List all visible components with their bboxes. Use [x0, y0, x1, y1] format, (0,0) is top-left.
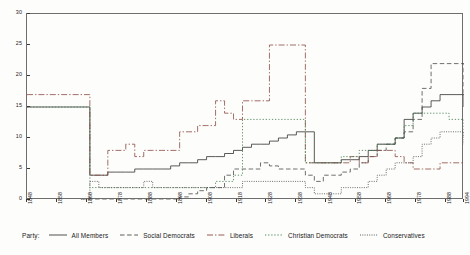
- y-tick-label: 15: [6, 103, 22, 108]
- x-tick-label: 1968: [387, 192, 392, 204]
- legend-swatch-liberals: [207, 232, 225, 238]
- legend-item-conservatives: Conservatives: [360, 232, 425, 239]
- y-tick-label: 20: [6, 72, 22, 77]
- legend-swatch-conservatives: [360, 232, 378, 238]
- x-tick-label: 1938: [298, 192, 303, 204]
- chart-legend: Party: All MembersSocial DemocratsLibera…: [22, 229, 437, 241]
- legend-item-social-democrats: Social Democrats: [120, 232, 195, 239]
- legend-label: All Members: [72, 232, 109, 239]
- y-tick-mark: [27, 13, 30, 14]
- y-tick-mark: [27, 137, 30, 138]
- legend-swatch-social-democrats: [120, 232, 138, 238]
- y-tick-mark: [27, 75, 30, 76]
- series-line-social-democrats: [81, 64, 464, 200]
- y-tick-label: 25: [6, 41, 22, 46]
- x-tick-label: 1958: [357, 192, 362, 204]
- legend-item-all-members: All Members: [49, 232, 109, 239]
- series-line-all-members: [27, 95, 464, 176]
- x-tick-label: 1908: [208, 192, 213, 204]
- plot-canvas: [27, 14, 464, 200]
- x-tick-label: 1868: [88, 192, 93, 204]
- series-line-conservatives: [81, 132, 464, 200]
- x-tick-label: 1948: [328, 192, 333, 204]
- y-tick-label: 0: [6, 196, 22, 201]
- x-tick-label: 1978: [417, 192, 422, 204]
- y-tick-label: 30: [6, 10, 22, 15]
- x-tick-label: 1994: [465, 192, 470, 204]
- series-line-liberals: [27, 45, 464, 175]
- legend-label: Christian Democrats: [288, 232, 348, 239]
- legend-label: Liberals: [230, 232, 253, 239]
- x-tick-label: 1898: [178, 192, 183, 204]
- y-tick-label: 5: [6, 165, 22, 170]
- x-tick-label: 1888: [148, 192, 153, 204]
- y-tick-label: 10: [6, 134, 22, 139]
- legend-item-christian-democrats: Christian Democrats: [265, 232, 348, 239]
- legend-item-liberals: Liberals: [207, 232, 253, 239]
- x-tick-label: 1988: [447, 192, 452, 204]
- x-tick-label: 1878: [118, 192, 123, 204]
- x-tick-label: 1918: [238, 192, 243, 204]
- legend-items: All MembersSocial DemocratsLiberalsChris…: [49, 232, 437, 239]
- legend-title: Party:: [22, 232, 40, 239]
- y-tick-mark: [27, 44, 30, 45]
- chart-screenshot: 051015202530 184818581868187818881898190…: [0, 0, 470, 255]
- y-tick-mark: [27, 168, 30, 169]
- x-tick-label: 1858: [58, 192, 63, 204]
- legend-swatch-christian-democrats: [265, 232, 283, 238]
- y-tick-mark: [27, 106, 30, 107]
- legend-label: Conservatives: [383, 232, 425, 239]
- legend-swatch-all-members: [49, 232, 67, 238]
- legend-label: Social Democrats: [143, 232, 195, 239]
- x-tick-label: 1848: [28, 192, 33, 204]
- plot-frame: [26, 13, 463, 199]
- x-tick-label: 1928: [268, 192, 273, 204]
